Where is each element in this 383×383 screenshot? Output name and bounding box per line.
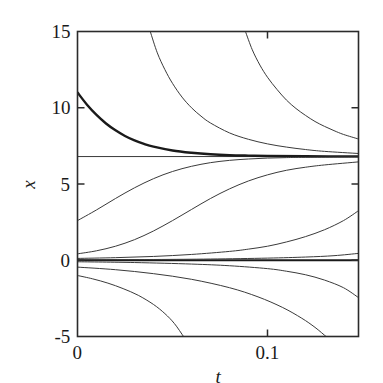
curve-trajectory-x0-0.4 [78, 162, 359, 254]
x-tick-label-0p1: 0.1 [255, 343, 279, 362]
curve-trajectory-blowdown-from-top-2 [245, 32, 358, 140]
axes-frame [78, 32, 359, 337]
curve-trajectory-blowdown-from-top-1 [150, 32, 358, 154]
y-axis-title: x [19, 180, 38, 188]
curve-trajectory-x0-neg-0.1 [78, 262, 359, 298]
x-axis-title: t [216, 367, 221, 383]
curve-trajectory-x0-neg-1.0 [78, 276, 184, 337]
y-tick-label-0: 0 [61, 251, 71, 270]
x-tick-label-0: 0 [73, 343, 83, 362]
y-tick-label-10: 10 [52, 98, 71, 117]
y-tick-label-5: 5 [61, 175, 71, 194]
y-tick-label-15: 15 [52, 22, 71, 41]
curve-trajectory-x0-0.03 [78, 253, 359, 259]
axis-ticks [78, 32, 359, 337]
figure-container: 15 10 5 0 -5 0 0.1 t x [0, 0, 383, 383]
curve-trajectory-x0-neg-0.45 [78, 267, 327, 336]
curve-trajectory-x0-2.6 [78, 157, 359, 221]
curve-trajectory-x0-0.12 [78, 211, 359, 259]
curve-trajectory-x0-11.0 [78, 93, 359, 157]
y-tick-label-neg5: -5 [55, 327, 71, 346]
curves-group [78, 32, 359, 337]
plot-frame [78, 32, 359, 337]
